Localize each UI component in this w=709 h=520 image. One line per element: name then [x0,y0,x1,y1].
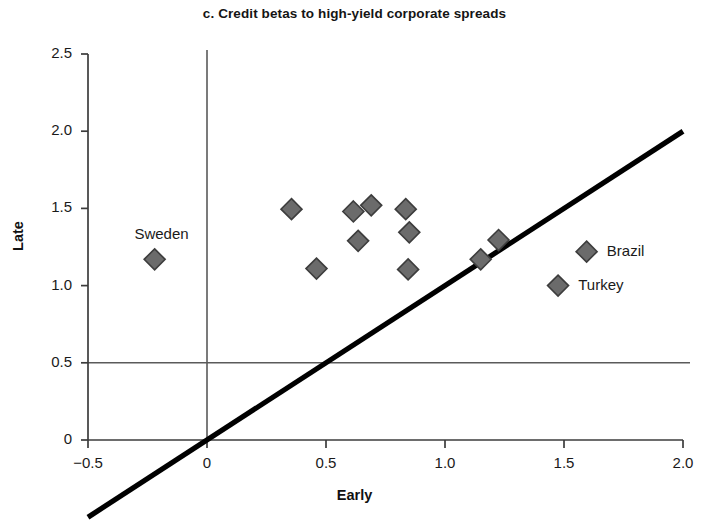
y-tick-label-5: 2.5 [26,44,72,61]
data-point-7 [399,222,420,243]
data-markers-layer [144,195,597,296]
y-tick-label-0: 0 [26,430,72,447]
data-point-5 [361,195,382,216]
y-tick-label-4: 2.0 [26,121,72,138]
data-point-turkey [548,275,569,296]
x-tick-label-2: 0.5 [296,454,356,471]
x-tick-label-0: −0.5 [58,454,118,471]
turkey-label: Turkey [578,276,623,293]
data-point-8 [398,259,419,280]
x-tick-label-5: 2.0 [653,454,709,471]
y-tick-label-3: 1.5 [26,198,72,215]
x-axis-label: Early [0,487,709,503]
data-point-sweden [144,249,165,270]
data-point-4 [348,230,369,251]
scatter-plot-canvas [0,0,709,520]
data-point-1 [281,199,302,220]
data-point-6 [395,199,416,220]
y-tick-label-2: 1.0 [26,276,72,293]
brazil-label: Brazil [607,242,645,259]
data-point-2 [306,258,327,279]
reference-lines-layer [88,50,690,440]
data-point-3 [343,201,364,222]
x-tick-label-1: 0 [177,454,237,471]
chart-figure: c. Credit betas to high-yield corporate … [0,0,709,520]
data-point-brazil [576,241,597,262]
y-tick-label-1: 0.5 [26,353,72,370]
x-tick-label-3: 1.0 [415,454,475,471]
y-axis-label: Late [10,201,26,271]
x-tick-label-4: 1.5 [534,454,594,471]
sweden-label: Sweden [134,225,188,242]
